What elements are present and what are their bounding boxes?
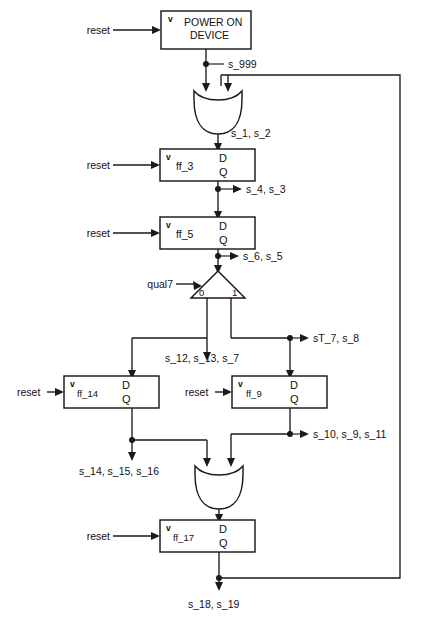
wire-ff5-to-mux: s_6, s_5 — [214, 249, 283, 274]
qual7-select-wire: qual7 — [147, 278, 202, 290]
ff17-label: ff_17 — [173, 532, 194, 543]
circuit-diagram-svg: v POWER ON DEVICE reset s_999 s_1, s_2 v… — [0, 0, 422, 628]
signal-label-s14-s15-s16: s_14, s_15, s_16 — [79, 465, 159, 477]
reset-label-ff14: reset — [17, 386, 40, 398]
ff5-clock-glyph: v — [166, 220, 171, 230]
ff17-q-port-label: Q — [219, 537, 228, 549]
reset-label-ff3: reset — [87, 159, 110, 171]
reset-wire-power-on: reset — [87, 24, 161, 36]
ff14-label: ff_14 — [77, 388, 98, 399]
reset-label-ff9: reset — [185, 386, 208, 398]
wire-feedback-into-or-top — [221, 75, 232, 92]
signal-label-sT7-s8: sT_7, s_8 — [313, 332, 359, 344]
signal-label-s18-s19: s_18, s_19 — [188, 598, 240, 610]
reset-label-ff5: reset — [87, 227, 110, 239]
reset-label-ff17: reset — [87, 530, 110, 542]
ff9-block: v ff_9 D Q — [232, 376, 327, 408]
signal-label-s4-s3: s_4, s_3 — [246, 183, 286, 195]
wire-mux1-branch: sT_7, s_8 — [231, 298, 359, 379]
mux-port-1-label: 1 — [232, 287, 237, 298]
power-on-label-line2: DEVICE — [190, 29, 229, 41]
ff14-q-port-label: Q — [122, 393, 131, 405]
signal-label-s1-s2: s_1, s_2 — [231, 127, 271, 139]
ff3-label: ff_3 — [176, 160, 193, 172]
circuit-diagram-canvas: v POWER ON DEVICE reset s_999 s_1, s_2 v… — [0, 0, 422, 628]
ff5-block: v ff_5 D Q — [160, 217, 255, 249]
ff17-d-port-label: D — [219, 523, 227, 535]
ff14-d-port-label: D — [122, 379, 130, 391]
ff14-clock-glyph: v — [70, 379, 75, 389]
ff3-q-port-label: Q — [219, 166, 228, 178]
signal-label-s10-s9-s11: s_10, s_9, s_11 — [313, 428, 387, 440]
wire-ff17-out: s_18, s_19 — [188, 552, 240, 610]
reset-label-power-on: reset — [87, 24, 110, 36]
ff17-clock-glyph: v — [166, 523, 171, 533]
reset-wire-ff17: reset — [87, 530, 160, 542]
ff3-d-port-label: D — [219, 152, 227, 164]
power-on-device-block: v POWER ON DEVICE — [161, 11, 251, 49]
ff9-d-port-label: D — [290, 379, 298, 391]
reset-wire-ff5: reset — [87, 227, 160, 239]
ff9-label: ff_9 — [246, 388, 262, 399]
or-gate-bottom — [195, 466, 243, 509]
signal-label-s999: s_999 — [228, 58, 257, 70]
signal-label-s12-s13-s7: s_12, s_13, s_7 — [165, 352, 239, 364]
ff9-clock-glyph: v — [238, 379, 243, 389]
wire-ff9-out: s_10, s_9, s_11 — [227, 408, 387, 467]
power-on-clock-glyph: v — [168, 14, 173, 24]
reset-wire-ff14: reset — [17, 386, 64, 398]
ff14-block: v ff_14 D Q — [64, 376, 159, 408]
ff5-label: ff_5 — [176, 228, 193, 240]
mux-select-label-qual7: qual7 — [147, 278, 173, 290]
wire-ff14-out: s_14, s_15, s_16 — [79, 408, 211, 477]
signal-label-s6-s5: s_6, s_5 — [243, 250, 283, 262]
ff5-q-port-label: Q — [219, 234, 228, 246]
ff3-block: v ff_3 D Q — [160, 149, 255, 181]
power-on-label-line1: POWER ON — [184, 16, 242, 28]
mux-port-0-label: 0 — [199, 287, 204, 298]
reset-wire-ff9: reset — [185, 386, 232, 398]
ff9-q-port-label: Q — [290, 393, 299, 405]
wire-mux0-branch: s_12, s_13, s_7 — [128, 298, 239, 379]
reset-wire-ff3: reset — [87, 159, 160, 171]
ff5-d-port-label: D — [219, 220, 227, 232]
ff3-clock-glyph: v — [166, 152, 171, 162]
wire-ff3-to-ff5: s_4, s_3 — [214, 181, 286, 220]
ff17-block: v ff_17 D Q — [160, 520, 255, 552]
